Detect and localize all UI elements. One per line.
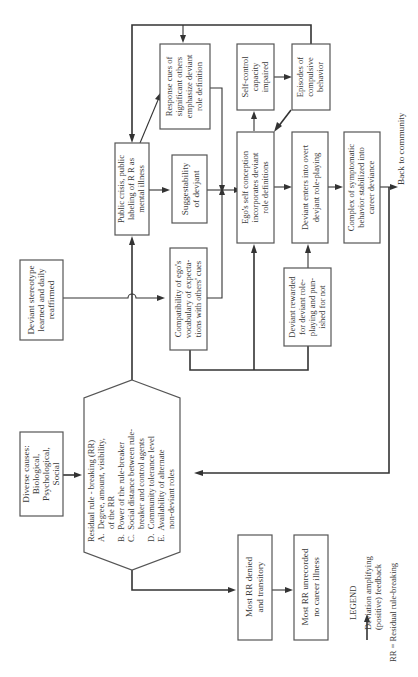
node-text: Self-control — [240, 56, 250, 98]
node-text: Most RR unrecorded — [300, 548, 310, 625]
node-compatibility: Compatibility of ego's vocabulary of exp… — [170, 248, 207, 350]
node-text: role definition — [194, 61, 204, 111]
arrowhead-icon — [335, 184, 343, 190]
node-text: learned and daily — [36, 268, 46, 332]
node-text: mental illness — [136, 165, 146, 213]
node-self-control: Self-control capacity impaired — [237, 44, 274, 110]
node-text: Residual rule - breaking (RR) — [86, 440, 96, 542]
node-episodes-compulsive-behavior: Episodes of compulsive behavior — [292, 44, 330, 110]
back-to-community-text: Back to community — [396, 112, 406, 185]
arrowhead-icon — [284, 74, 292, 80]
node-text: Psychological, — [41, 447, 51, 501]
node-text: ished for not — [317, 285, 327, 329]
node-response-cues: Response cues of significant others emph… — [160, 44, 210, 129]
arrowhead-icon — [162, 187, 170, 193]
connector-response-cues-down — [210, 88, 222, 190]
node-text: Episodes of — [295, 57, 305, 97]
node-ego-self-conception: Ego's self conception incorporates devia… — [237, 132, 274, 243]
node-text: Deviant rewarded — [287, 276, 297, 338]
node-text: A. Degree, amount, visibility, — [96, 438, 106, 542]
node-deviant-stereotype: Deviant stereotype learned and daily rea… — [20, 260, 63, 340]
connector-rr-to-denied — [132, 570, 230, 590]
node-residual-rule-breaking: Residual rule - breaking (RR) A. Degree,… — [84, 380, 180, 570]
node-text: D. Community tolerance level — [146, 435, 156, 542]
node-text: Ego's self conception — [240, 150, 250, 224]
node-text: Complex of symptomatic — [346, 144, 356, 232]
arrowhead-icon — [194, 470, 203, 476]
arrowhead-icon — [251, 244, 257, 253]
node-text: reaffirmed — [46, 280, 56, 319]
node-most-rr-unrecorded: Most RR unrecorded no career illness — [294, 535, 328, 640]
node-text: of the RR — [106, 495, 116, 542]
node-text: non-deviant roles — [166, 469, 176, 542]
arrowhead-icon — [219, 185, 225, 193]
node-text: Deviant stereotype — [26, 265, 36, 334]
node-text: Suggestability — [180, 162, 190, 215]
node-text: B. Power of the rule-breaker — [116, 442, 126, 542]
node-text: Deviant enters into overt — [300, 144, 310, 230]
legend-title: LEGEND — [348, 586, 358, 620]
connector-compatibility-up — [207, 195, 222, 298]
node-text: Compatibility of ego's — [173, 260, 183, 337]
node-text: Most RR denied — [244, 556, 254, 617]
node-text: significant others — [174, 56, 184, 116]
label-back-to-community: Back to community — [396, 112, 406, 185]
node-text: Biological, — [31, 454, 41, 495]
node-text: C. Social distance between rule- — [126, 429, 136, 542]
node-text: vocabulary of expecta- — [183, 259, 193, 338]
node-text: incorporates deviant — [250, 152, 260, 223]
node-text: compulsive — [305, 57, 315, 97]
arrowhead-icon — [228, 587, 236, 593]
node-text: capacity — [250, 62, 260, 91]
node-text: impaired — [260, 61, 270, 92]
labeling-theory-flow-diagram: Diverse causes: Biological, Psychologica… — [0, 0, 418, 677]
node-text: Response cues of — [164, 57, 174, 117]
node-deviant-rewarded: Deviant rewarded for deviant role- playi… — [284, 268, 331, 346]
arrowhead-icon — [305, 244, 311, 253]
node-text: role definitions — [260, 161, 270, 214]
arrowhead-icon — [129, 134, 135, 143]
arrowhead-icon — [74, 472, 82, 478]
node-most-rr-denied: Most RR denied and transitory — [238, 535, 272, 640]
node-diverse-causes: Diverse causes: Biological, Psychologica… — [20, 432, 63, 516]
node-text: emphasize deviant — [184, 54, 194, 118]
node-text: no career illness — [311, 557, 321, 617]
legend-text: (positive) feedback — [373, 563, 383, 630]
legend-abbreviation: RR = Residual rule-breaking — [388, 562, 398, 662]
node-text: behavior stabilized into — [356, 147, 366, 228]
node-text: of devjant — [191, 170, 201, 207]
node-suggestability: Suggestability of devjant — [172, 155, 207, 223]
node-text: playing and pun- — [307, 278, 317, 336]
node-text: E. Availability of alternate — [156, 449, 166, 542]
node-text: labeling of R R as — [126, 157, 136, 220]
connector-stereotype-to-compatibility — [63, 294, 160, 298]
node-text: behavior — [315, 62, 325, 92]
node-text: and transitory — [255, 561, 265, 612]
arrowhead-icon — [285, 587, 293, 593]
node-deviant-enters: Deviant enters into overt devjant role-p… — [292, 132, 328, 243]
node-text: Social — [51, 462, 61, 485]
legend: LEGEND Deviation amplifying (positive) f… — [348, 556, 398, 662]
node-text: career deviance — [366, 160, 376, 214]
arrowhead-icon — [251, 111, 257, 119]
arrowhead-icon — [157, 295, 165, 301]
legend-text: Deviation amplifying — [363, 556, 373, 630]
arrowhead-icon — [284, 184, 292, 190]
node-text: Public crisis, public — [116, 155, 126, 223]
node-text: tions with others' cues — [193, 260, 203, 337]
node-public-crisis: Public crisis, public labeling of R R as… — [115, 143, 149, 235]
node-text: for deviant role- — [297, 279, 307, 335]
node-text: Diverse causes: — [21, 445, 31, 502]
arrowhead-icon — [129, 236, 135, 245]
arrowhead-icon — [180, 35, 186, 43]
node-complex-symptomatic: Complex of symptomatic behavior stabiliz… — [344, 132, 380, 243]
connector-crisis-to-response-cues — [140, 100, 158, 143]
node-text: breaker and control agents — [136, 438, 146, 542]
node-text: devjant role-playing — [311, 152, 321, 222]
